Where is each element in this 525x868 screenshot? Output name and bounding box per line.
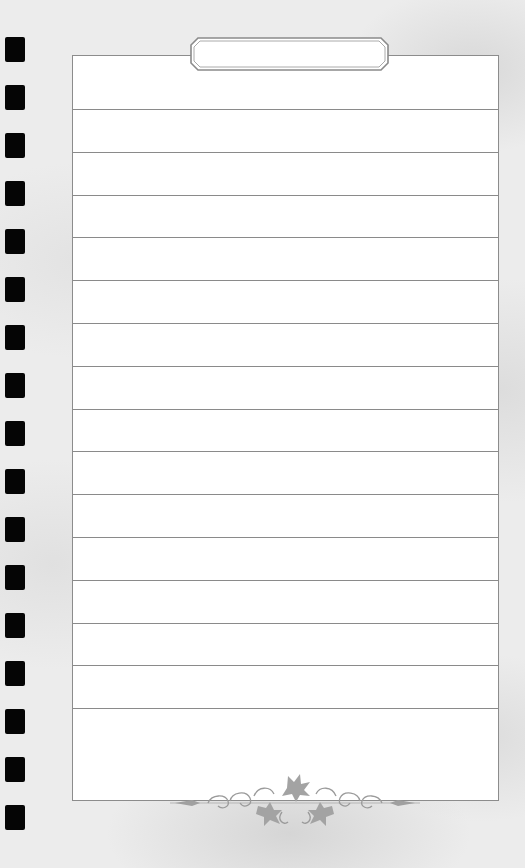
ruled-line: [73, 451, 498, 452]
title-text: [190, 37, 389, 71]
binder-hole: [5, 469, 25, 494]
note-page[interactable]: [72, 55, 499, 801]
binder-holes: [0, 0, 40, 868]
ruled-line: [73, 109, 498, 110]
title-tab[interactable]: [190, 37, 389, 71]
ruled-line: [73, 195, 498, 196]
ruled-line: [73, 623, 498, 624]
binder-hole: [5, 133, 25, 158]
binder-hole: [5, 565, 25, 590]
ruled-line: [73, 665, 498, 666]
ruled-line: [73, 494, 498, 495]
ruled-line: [73, 323, 498, 324]
ruled-line: [73, 580, 498, 581]
binder-hole: [5, 709, 25, 734]
binder-hole: [5, 805, 25, 830]
ruled-line: [73, 152, 498, 153]
floral-vine-ornament-icon: [170, 772, 420, 836]
binder-hole: [5, 613, 25, 638]
binder-hole: [5, 37, 25, 62]
binder-hole: [5, 661, 25, 686]
ruled-line: [73, 409, 498, 410]
binder-hole: [5, 181, 25, 206]
binder-hole: [5, 277, 25, 302]
binder-hole: [5, 325, 25, 350]
binder-hole: [5, 85, 25, 110]
ruled-line: [73, 366, 498, 367]
binder-hole: [5, 373, 25, 398]
binder-hole: [5, 757, 25, 782]
ruled-line: [73, 708, 498, 709]
ruled-line: [73, 537, 498, 538]
ruled-line: [73, 237, 498, 238]
binder-hole: [5, 517, 25, 542]
binder-hole: [5, 229, 25, 254]
ruled-line: [73, 280, 498, 281]
binder-hole: [5, 421, 25, 446]
